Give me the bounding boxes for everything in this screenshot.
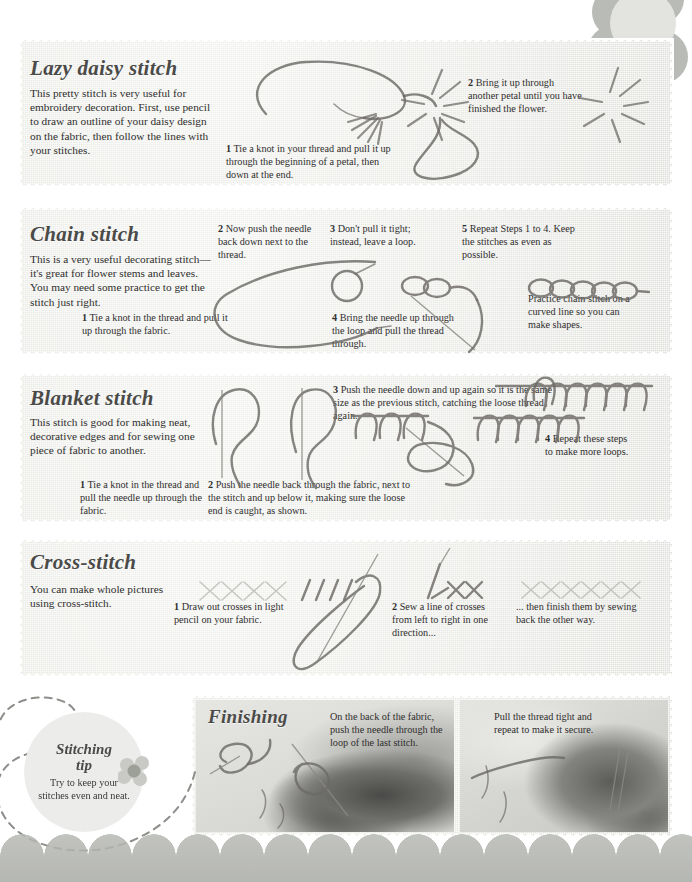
step-lazy-daisy-2: 2 Bring it up through another petal unti… — [468, 76, 586, 115]
step-lazy-daisy-1: 1 Tie a knot in your thread and pull it … — [226, 142, 391, 181]
step-chain-1: 1 Tie a knot in the thread and pull it u… — [82, 311, 232, 337]
intro-cross-stitch: You can make whole pictures using cross-… — [30, 582, 170, 610]
step-text: Bring the needle up through the loop and… — [332, 312, 454, 349]
heading-blanket-stitch: Blanket stitch — [30, 386, 154, 411]
book-page: 115 Lazy daisy stitch This pretty stitch… — [0, 0, 692, 882]
step-text: Sew a line of crosses from left to right… — [392, 601, 488, 638]
step-chain-2: 2 Now push the needle back down next to … — [218, 222, 323, 261]
flower-icon — [118, 755, 152, 787]
bottom-scallop-band — [0, 834, 692, 882]
step-number: 1 — [174, 601, 179, 612]
tip-title: Stitching tip — [56, 741, 112, 773]
step-cross-1: 1 Draw out crosses in light pencil on yo… — [174, 600, 302, 626]
note-finishing-1: On the back of the fabric, push the need… — [330, 710, 454, 749]
step-text: Now push the needle back down next to th… — [218, 223, 311, 260]
step-text: Tie a knot in the thread and pull it up … — [82, 312, 228, 336]
step-number: 2 — [208, 479, 213, 490]
step-text: Draw out crosses in light pencil on your… — [174, 601, 284, 625]
step-text: Tie a knot in your thread and pull it up… — [226, 143, 391, 180]
step-cross-2: 2 Sew a line of crosses from left to rig… — [392, 600, 504, 639]
step-blanket-3: 3 Push the needle down and up again so i… — [333, 383, 555, 422]
step-text: Repeat these steps to make more loops. — [545, 433, 628, 457]
step-number: 5 — [462, 223, 467, 234]
step-text: Repeat Steps 1 to 4. Keep the stitches a… — [462, 223, 575, 260]
note-finishing-2: Pull the thread tight and repeat to make… — [494, 710, 606, 736]
note-cross-finish: ... then finish them by sewing back the … — [516, 600, 644, 626]
tip-title-line1: Stitching — [56, 741, 112, 757]
tip-title-line2: tip — [56, 757, 112, 773]
heading-cross-stitch: Cross-stitch — [30, 550, 136, 575]
step-text: Bring it up through another petal until … — [468, 77, 582, 114]
heading-finishing: Finishing — [208, 706, 288, 728]
step-number: 4 — [332, 312, 337, 323]
heading-lazy-daisy: Lazy daisy stitch — [30, 56, 177, 81]
step-number: 1 — [80, 479, 85, 490]
step-text: Tie a knot in the thread and pull the ne… — [80, 479, 202, 516]
step-number: 1 — [82, 312, 87, 323]
intro-blanket-stitch: This stitch is good for making neat, dec… — [30, 415, 195, 458]
step-number: 2 — [218, 223, 223, 234]
step-chain-5: 5 Repeat Steps 1 to 4. Keep the stitches… — [462, 222, 587, 261]
step-text: Don't pull it tight; instead, leave a lo… — [330, 223, 416, 247]
step-text: Push the needle down and up again so it … — [333, 384, 552, 421]
step-number: 4 — [545, 433, 550, 444]
step-number: 2 — [468, 77, 473, 88]
intro-lazy-daisy: This pretty stitch is very useful for em… — [30, 86, 220, 157]
step-number: 3 — [330, 223, 335, 234]
step-chain-4: 4 Bring the needle up through the loop a… — [332, 311, 454, 350]
step-blanket-1: 1 Tie a knot in the thread and pull the … — [80, 478, 210, 517]
tip-body: Try to keep your stitches even and neat. — [38, 777, 130, 802]
heading-chain-stitch: Chain stitch — [30, 222, 139, 247]
note-chain-practice: Practice chain stitch on a curved line s… — [528, 292, 640, 331]
step-blanket-4: 4 Repeat these steps to make more loops. — [545, 432, 637, 458]
step-text: Push the needle back through the fabric,… — [208, 479, 410, 516]
step-number: 2 — [392, 601, 397, 612]
intro-chain-stitch: This is a very useful decorating stitch—… — [30, 252, 216, 309]
step-number: 3 — [333, 384, 338, 395]
step-chain-3: 3 Don't pull it tight; instead, leave a … — [330, 222, 440, 248]
step-blanket-2: 2 Push the needle back through the fabri… — [208, 478, 416, 517]
step-number: 1 — [226, 143, 231, 154]
